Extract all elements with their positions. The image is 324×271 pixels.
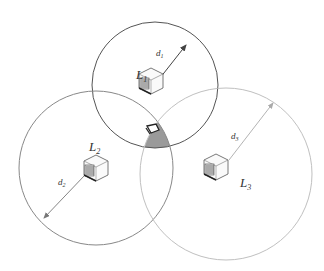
trilateration-diagram: L1 L2 L3 d1 d2 d3 [0, 0, 324, 271]
label-l3: L3 [239, 175, 251, 192]
radius-arrow-1 [160, 45, 186, 78]
label-l1: L1 [135, 67, 147, 84]
server-icon-l3 [204, 154, 228, 180]
radius-arrow-3 [229, 103, 273, 160]
label-d3: d3 [231, 131, 239, 142]
diagram-canvas: L1 L2 L3 d1 d2 d3 [0, 0, 324, 271]
label-l2: L2 [88, 139, 100, 156]
server-icon-l2 [84, 155, 108, 181]
label-d2: d2 [58, 177, 66, 188]
label-d1: d1 [156, 48, 164, 59]
